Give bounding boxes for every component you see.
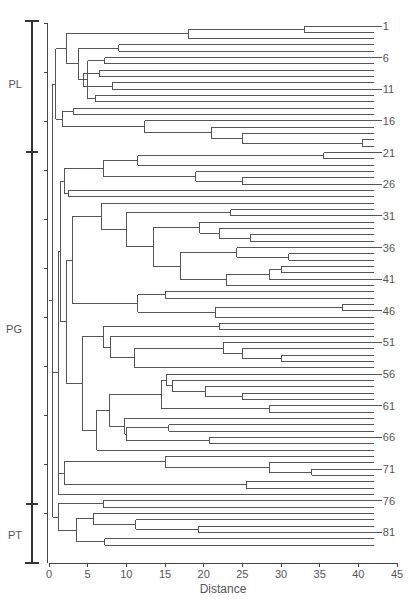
group-label-pl: PL bbox=[9, 78, 22, 90]
group-label-pg: PG bbox=[6, 323, 22, 335]
leaf-label: 61 bbox=[383, 400, 395, 412]
leaf-label: 71 bbox=[383, 463, 395, 475]
leaf-label: 66 bbox=[383, 431, 395, 443]
leaf-label: 76 bbox=[383, 495, 395, 507]
x-tick-label: 35 bbox=[314, 568, 326, 580]
x-tick-label: 20 bbox=[198, 568, 210, 580]
group-label-pt: PT bbox=[8, 529, 22, 541]
x-tick-label: 15 bbox=[159, 568, 171, 580]
x-tick-label: 10 bbox=[120, 568, 132, 580]
leaf-label: 51 bbox=[383, 336, 395, 348]
x-tick-label: 25 bbox=[236, 568, 248, 580]
leaf-label: 21 bbox=[383, 147, 395, 159]
dendrogram-chart: 16111621263136414651566166717681 PLPGPT … bbox=[0, 0, 417, 603]
dendrogram-branches bbox=[49, 26, 374, 545]
y-axis bbox=[44, 23, 47, 563]
leaf-label: 31 bbox=[383, 210, 395, 222]
x-tick-label: 30 bbox=[275, 568, 287, 580]
x-tick-label: 40 bbox=[352, 568, 364, 580]
x-tick-label: 0 bbox=[46, 568, 52, 580]
leaf-label: 16 bbox=[383, 115, 395, 127]
leaf-label: 56 bbox=[383, 368, 395, 380]
leaf-labels: 16111621263136414651566166717681 bbox=[374, 20, 395, 538]
leaf-label: 11 bbox=[383, 83, 394, 95]
group-brackets: PLPGPT bbox=[6, 21, 39, 563]
leaf-label: 41 bbox=[383, 273, 395, 285]
leaf-label: 36 bbox=[383, 242, 395, 254]
x-axis: 051015202530354045 bbox=[46, 563, 403, 580]
x-tick-label: 5 bbox=[85, 568, 91, 580]
leaf-label: 6 bbox=[383, 52, 389, 64]
leaf-label: 46 bbox=[383, 305, 395, 317]
leaf-label: 81 bbox=[383, 526, 395, 538]
leaf-label: 1 bbox=[383, 20, 389, 32]
x-axis-title: Distance bbox=[200, 582, 247, 596]
x-tick-label: 45 bbox=[391, 568, 403, 580]
leaf-label: 26 bbox=[383, 178, 395, 190]
